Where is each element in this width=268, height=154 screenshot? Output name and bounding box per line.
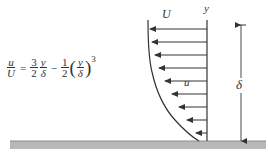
coef-1-over-2: 1 2 [61, 57, 69, 78]
delta-label: δ [236, 77, 242, 93]
y-over-delta-1: y δ [40, 57, 47, 78]
coef-3-over-2: 3 2 [30, 57, 38, 78]
flat-plate [10, 141, 266, 149]
eq-coef1-den: 2 [30, 68, 38, 78]
free-stream-velocity-label: U [162, 7, 171, 22]
u-over-U: u U [6, 57, 16, 78]
eq-var1-den: δ [40, 68, 47, 78]
velocity-arrows [150, 29, 207, 133]
y-over-delta-2: y δ [77, 57, 84, 78]
local-velocity-label: u [184, 76, 190, 88]
eq-coef2-den: 2 [61, 68, 69, 78]
y-axis-label: y [204, 2, 209, 14]
eq-minus: − [51, 62, 57, 74]
eq-equals: = [20, 62, 26, 74]
eq-exponent: 3 [91, 54, 96, 64]
eq-var2-den: δ [77, 68, 84, 78]
eq-lhs-denominator: U [6, 68, 16, 78]
eq-paren-open: ( [70, 58, 76, 77]
velocity-profile-equation: u U = 3 2 y δ − 1 2 ( y δ ) 3 [5, 57, 96, 78]
